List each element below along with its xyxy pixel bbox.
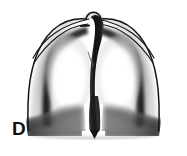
figure-panel: D — [0, 0, 187, 156]
anatomical-illustration — [0, 0, 187, 156]
apex-dash-mark — [81, 26, 89, 27]
panel-label: D — [12, 118, 26, 140]
